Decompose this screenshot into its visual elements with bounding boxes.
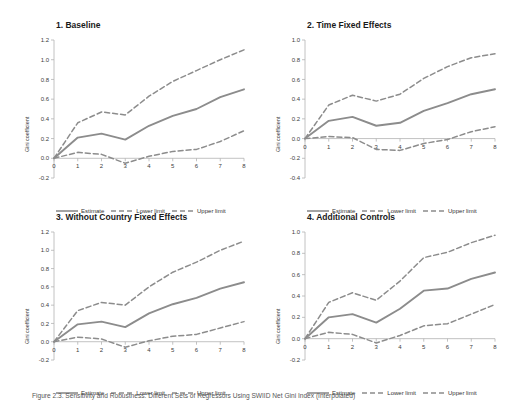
svg-text:0.0: 0.0: [41, 339, 50, 345]
svg-text:8: 8: [242, 163, 246, 169]
figure-sheet: 1. Baseline Gini coefficient -0.20.00.20…: [0, 0, 516, 407]
legend-line-dashed-icon: [362, 391, 384, 395]
svg-text:3: 3: [124, 163, 128, 169]
svg-text:1: 1: [76, 347, 80, 353]
svg-text:1.2: 1.2: [41, 37, 50, 43]
panel-4-plot: Gini coefficient -0.20.00.20.40.60.81.00…: [265, 226, 503, 378]
svg-text:0.8: 0.8: [292, 57, 301, 63]
svg-text:0.6: 0.6: [292, 77, 301, 83]
svg-text:7: 7: [470, 344, 474, 350]
svg-text:0.4: 0.4: [41, 116, 50, 122]
svg-text:1.0: 1.0: [41, 57, 50, 63]
panel-1-svg: -0.20.00.20.40.60.81.01.2012345678: [14, 34, 252, 196]
svg-text:5: 5: [171, 163, 175, 169]
svg-text:4: 4: [147, 163, 151, 169]
svg-text:0.6: 0.6: [292, 272, 301, 278]
panel-4-svg: -0.20.00.20.40.60.81.0012345678: [265, 226, 503, 378]
svg-text:6: 6: [195, 163, 199, 169]
svg-text:0.4: 0.4: [292, 96, 301, 102]
svg-text:0: 0: [52, 163, 56, 169]
panel-2: 2. Time Fixed Effects Gini coefficient -…: [265, 20, 503, 210]
svg-text:0.4: 0.4: [292, 293, 301, 299]
svg-text:5: 5: [422, 344, 426, 350]
panel-2-svg: -0.4-0.20.00.20.40.60.81.0012345678: [265, 34, 503, 196]
svg-text:1.0: 1.0: [41, 247, 50, 253]
svg-text:7: 7: [470, 144, 474, 150]
svg-text:0: 0: [52, 347, 56, 353]
svg-text:0.8: 0.8: [41, 266, 50, 272]
legend-item-upper: Upper limit: [423, 390, 477, 396]
panel-1: 1. Baseline Gini coefficient -0.20.00.20…: [14, 20, 252, 210]
svg-text:7: 7: [219, 163, 223, 169]
svg-text:5: 5: [171, 347, 175, 353]
panel-2-ylabel: Gini coefficient: [275, 117, 281, 152]
panel-4-title: 4. Additional Controls: [307, 212, 395, 222]
svg-text:0.4: 0.4: [41, 302, 50, 308]
panel-2-title: 2. Time Fixed Effects: [307, 20, 391, 30]
svg-text:1: 1: [327, 344, 331, 350]
svg-text:3: 3: [375, 344, 379, 350]
svg-text:0.6: 0.6: [41, 96, 50, 102]
svg-text:1: 1: [327, 144, 331, 150]
svg-text:1: 1: [76, 163, 80, 169]
svg-text:0.0: 0.0: [41, 155, 50, 161]
svg-text:6: 6: [446, 144, 450, 150]
svg-text:0.0: 0.0: [292, 336, 301, 342]
svg-text:-0.2: -0.2: [39, 357, 50, 363]
figure-caption: Figure 2.3. Sensitivity and Robustness: …: [32, 392, 355, 399]
svg-text:6: 6: [195, 347, 199, 353]
svg-text:0.2: 0.2: [292, 116, 301, 122]
svg-text:0.0: 0.0: [292, 136, 301, 142]
legend-line-dashed-icon: [423, 391, 445, 395]
svg-text:0: 0: [303, 344, 307, 350]
svg-text:1.0: 1.0: [292, 229, 301, 235]
svg-text:0.8: 0.8: [292, 250, 301, 256]
svg-text:-0.2: -0.2: [290, 357, 301, 363]
svg-text:2: 2: [351, 344, 355, 350]
svg-text:4: 4: [398, 144, 402, 150]
svg-text:0: 0: [303, 144, 307, 150]
legend-label-lower: Lower limit: [387, 390, 416, 396]
svg-text:2: 2: [351, 144, 355, 150]
svg-text:0.2: 0.2: [292, 314, 301, 320]
svg-text:1.0: 1.0: [292, 37, 301, 43]
svg-text:2: 2: [100, 163, 104, 169]
svg-text:1.2: 1.2: [41, 229, 50, 235]
panel-3-ylabel: Gini coefficient: [24, 309, 30, 344]
panel-1-plot: Gini coefficient -0.20.00.20.40.60.81.01…: [14, 34, 252, 196]
svg-text:0.6: 0.6: [41, 284, 50, 290]
panel-3-svg: -0.20.00.20.40.60.81.01.2012345678: [14, 226, 252, 378]
panel-1-ylabel: Gini coefficient: [24, 117, 30, 152]
svg-text:-0.2: -0.2: [39, 175, 50, 181]
panel-3-title: 3. Without Country Fixed Effects: [56, 212, 187, 222]
panel-4-ylabel: Gini coefficient: [275, 309, 281, 344]
svg-text:8: 8: [493, 344, 497, 350]
svg-text:8: 8: [242, 347, 246, 353]
svg-text:6: 6: [446, 344, 450, 350]
svg-text:7: 7: [219, 347, 223, 353]
svg-text:0.2: 0.2: [41, 321, 50, 327]
svg-text:4: 4: [147, 347, 151, 353]
panel-2-plot: Gini coefficient -0.4-0.20.00.20.40.60.8…: [265, 34, 503, 196]
svg-text:4: 4: [398, 344, 402, 350]
panel-3-plot: Gini coefficient -0.20.00.20.40.60.81.01…: [14, 226, 252, 378]
svg-text:2: 2: [100, 347, 104, 353]
panel-1-title: 1. Baseline: [56, 20, 100, 30]
svg-text:-0.2: -0.2: [290, 155, 301, 161]
svg-text:-0.4: -0.4: [290, 175, 301, 181]
panel-4: 4. Additional Controls Gini coefficient …: [265, 212, 503, 402]
svg-text:0.8: 0.8: [41, 77, 50, 83]
svg-text:0.2: 0.2: [41, 136, 50, 142]
svg-text:8: 8: [493, 144, 497, 150]
legend-label-upper: Upper limit: [448, 390, 477, 396]
panel-3: 3. Without Country Fixed Effects Gini co…: [14, 212, 252, 402]
legend-item-lower: Lower limit: [362, 390, 416, 396]
